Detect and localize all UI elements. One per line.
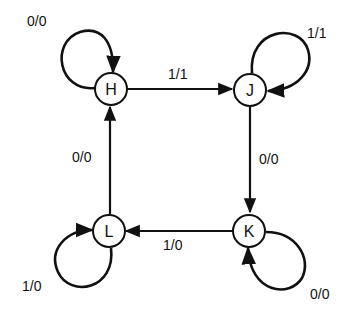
node-label-j: J (246, 82, 254, 99)
edge-label-j-k: 0/0 (259, 151, 279, 167)
node-label-l: L (105, 223, 114, 240)
node-l: L (93, 215, 125, 247)
state-diagram: 1/1 0/0 1/0 0/0 0/0 1/1 1/0 0/0 H (0, 0, 357, 318)
edge-label-h-h: 0/0 (27, 13, 47, 29)
node-label-k: K (244, 223, 255, 240)
edge-label-k-k: 0/0 (310, 286, 330, 302)
edge-label-l-l: 1/0 (22, 278, 42, 294)
edge-h-to-j: 1/1 (127, 66, 232, 89)
node-h: H (95, 73, 127, 105)
edge-l-to-h: 0/0 (72, 107, 110, 214)
node-k: K (233, 215, 265, 247)
edge-label-h-j: 1/1 (168, 66, 188, 82)
edge-k-to-l: 1/0 (126, 231, 233, 253)
edge-label-l-h: 0/0 (72, 149, 92, 165)
edge-label-j-j: 1/1 (307, 25, 327, 41)
node-j: J (234, 74, 266, 106)
edge-label-k-l: 1/0 (163, 237, 183, 253)
edge-j-to-k: 0/0 (250, 106, 279, 212)
node-label-h: H (105, 81, 117, 98)
